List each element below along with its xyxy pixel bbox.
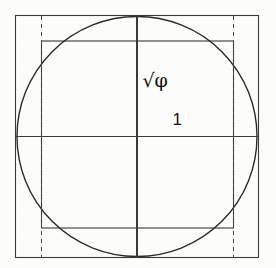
geometric-figure: √φ 1 <box>0 0 276 268</box>
figure-canvas <box>0 0 276 268</box>
